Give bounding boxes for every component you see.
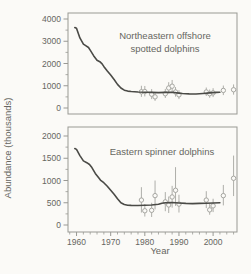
panel-frame	[68, 13, 237, 114]
survey-point	[231, 88, 235, 92]
y-tick-label: 2000	[42, 131, 61, 141]
survey-point	[211, 204, 215, 208]
panel1-title-line1: Northeastern offshore	[119, 30, 211, 41]
y-tick-label: 3000	[42, 36, 61, 46]
survey-point	[207, 208, 211, 212]
x-axis-label: Year	[135, 245, 185, 258]
survey-point	[221, 88, 225, 92]
survey-point	[153, 193, 157, 197]
y-tick-label: 0	[56, 220, 61, 230]
panel1-title-line2: spotted dolphins	[130, 43, 199, 54]
y-axis-label: Abundance (thousands)	[2, 48, 16, 248]
survey-point	[139, 198, 143, 202]
survey-point	[231, 176, 235, 180]
panel2-title: Eastern spinner dolphins	[107, 146, 217, 159]
x-tick-label: 2000	[204, 237, 223, 247]
y-tick-label: 1000	[42, 81, 61, 91]
survey-point	[204, 198, 208, 202]
y-tick-label: 500	[47, 198, 61, 208]
y-tick-label: 4000	[42, 14, 61, 24]
x-tick-label: 1960	[67, 237, 86, 247]
dolphin-abundance-figure: 0100020003000400005001000150020001960197…	[0, 0, 251, 274]
x-tick-label: 1970	[101, 237, 120, 247]
y-tick-label: 0	[56, 103, 61, 113]
y-tick-label: 1000	[42, 176, 61, 186]
survey-point	[153, 95, 157, 99]
survey-point	[170, 84, 174, 88]
survey-point	[170, 195, 174, 199]
panel-frame	[68, 127, 237, 232]
y-tick-label: 1500	[42, 153, 61, 163]
panel1-title: Northeastern offshore spotted dolphins	[110, 30, 220, 55]
survey-point	[221, 193, 225, 197]
survey-point	[149, 208, 153, 212]
survey-point	[143, 209, 147, 213]
survey-point	[173, 188, 177, 192]
y-tick-label: 2000	[42, 59, 61, 69]
